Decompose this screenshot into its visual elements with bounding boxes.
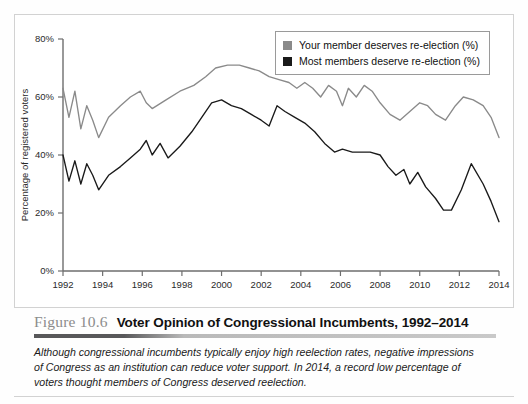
chart-legend: Your member deserves re-election (%) Mos… xyxy=(275,31,490,75)
figure-caption-heading: Figure 10.6 Voter Opinion of Congression… xyxy=(14,313,514,331)
svg-text:2012: 2012 xyxy=(449,279,470,290)
svg-text:2008: 2008 xyxy=(370,279,391,290)
figure-number: Figure 10.6 xyxy=(34,313,108,331)
svg-text:1992: 1992 xyxy=(52,279,73,290)
legend-item-your-member: Your member deserves re-election (%) xyxy=(283,37,480,53)
svg-text:20%: 20% xyxy=(35,207,55,218)
chart-plot-frame: 0%20%40%60%80%19921994199619982000200220… xyxy=(14,14,514,308)
svg-text:40%: 40% xyxy=(35,149,55,160)
svg-text:60%: 60% xyxy=(35,91,55,102)
figure-container: 0%20%40%60%80%19921994199619982000200220… xyxy=(0,0,528,404)
legend-item-most-members: Most members deserve re-election (%) xyxy=(283,53,480,69)
svg-text:2006: 2006 xyxy=(330,279,351,290)
figure-title: Voter Opinion of Congressional Incumbent… xyxy=(117,315,469,330)
svg-text:2004: 2004 xyxy=(290,279,311,290)
svg-text:1996: 1996 xyxy=(132,279,153,290)
caption-divider-bar xyxy=(34,334,496,338)
svg-text:1998: 1998 xyxy=(171,279,192,290)
figure-caption-block: Figure 10.6 Voter Opinion of Congression… xyxy=(14,313,514,390)
legend-label-most-members: Most members deserve re-election (%) xyxy=(299,56,480,67)
svg-text:Percentage of registered voter: Percentage of registered voters xyxy=(19,88,30,221)
svg-text:80%: 80% xyxy=(35,33,55,44)
legend-swatch-most-members xyxy=(283,57,292,66)
figure-bottom-divider xyxy=(14,396,514,397)
legend-label-your-member: Your member deserves re-election (%) xyxy=(299,40,478,51)
svg-text:2014: 2014 xyxy=(488,279,509,290)
svg-text:2002: 2002 xyxy=(251,279,272,290)
svg-text:2010: 2010 xyxy=(409,279,430,290)
figure-caption-text: Although congressional incumbents typica… xyxy=(34,345,484,390)
legend-swatch-your-member xyxy=(283,41,292,50)
svg-text:1994: 1994 xyxy=(92,279,113,290)
svg-text:0%: 0% xyxy=(40,265,54,276)
svg-text:2000: 2000 xyxy=(211,279,232,290)
chart-series xyxy=(63,65,499,222)
